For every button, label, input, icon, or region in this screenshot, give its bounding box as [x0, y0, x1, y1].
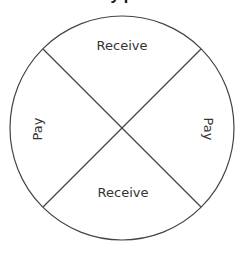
- quadrant-label-top: Receive: [97, 39, 148, 52]
- quadrant-label-right: Pay: [202, 118, 215, 141]
- quadrant-label-left: Pay: [31, 118, 44, 141]
- quadrant-label-bottom: Receive: [98, 186, 149, 199]
